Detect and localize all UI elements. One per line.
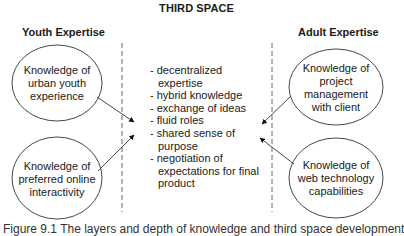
label-line: Knowledge of <box>12 160 102 173</box>
youth-bottom-node-label: Knowledge of preferred online interactiv… <box>12 160 102 199</box>
label-line: with client <box>294 101 378 114</box>
label-line: Knowledge of <box>290 159 382 172</box>
label-line: web technology <box>290 172 382 185</box>
youth-top-node-label: Knowledge of urban youth experience <box>17 64 97 103</box>
list-item: - exchange of ideas <box>150 102 260 115</box>
list-item: - decentralized expertise <box>150 64 260 89</box>
arrow-adult-top <box>262 96 291 124</box>
label-line: Knowledge of <box>294 62 378 75</box>
label-line: Knowledge of <box>17 64 97 77</box>
arrow-youth-bottom <box>98 135 134 171</box>
arrow-youth-top <box>97 97 134 122</box>
label-line: project <box>294 75 378 88</box>
list-item: - shared sense of purpose <box>150 127 260 152</box>
label-line: experience <box>17 90 97 103</box>
label-line: preferred online <box>12 173 102 186</box>
label-line: management <box>294 88 378 101</box>
list-item: - fluid roles <box>150 114 260 127</box>
label-line: interactivity <box>12 186 102 199</box>
list-item: - hybrid knowledge <box>150 89 260 102</box>
label-line: capabilities <box>290 185 382 198</box>
label-line: urban youth <box>17 77 97 90</box>
adult-top-node-label: Knowledge of project management with cli… <box>294 62 378 114</box>
figure-caption: Figure 9.1 The layers and depth of knowl… <box>3 222 404 236</box>
adult-bottom-node-label: Knowledge of web technology capabilities <box>290 159 382 198</box>
third-space-characteristics-list: - decentralized expertise - hybrid knowl… <box>150 64 260 190</box>
list-item: - negotiation of expectations for final … <box>150 152 260 190</box>
arrow-adult-bottom <box>260 138 294 164</box>
